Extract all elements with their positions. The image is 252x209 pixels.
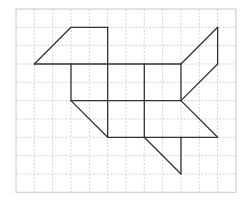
bird-shape-diagram — [0, 0, 252, 209]
grid-figure — [0, 0, 252, 209]
